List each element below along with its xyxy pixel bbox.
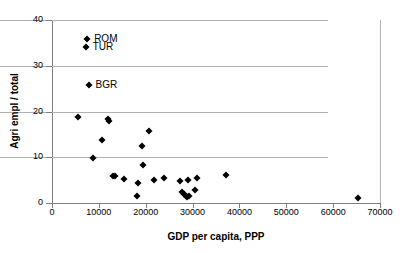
y-tick-20: [46, 112, 52, 113]
x-axis-line: [52, 203, 381, 204]
y-tick-label-10: 10: [0, 152, 43, 161]
data-point-label-TUR: TUR: [93, 42, 114, 52]
y-tick-40: [46, 20, 52, 21]
y-tick-label-40: 40: [0, 15, 43, 24]
y-axis-title: Agri empl / total: [9, 36, 21, 186]
y-tick-label-20: 20: [0, 107, 43, 116]
plot-right-border: [380, 20, 381, 204]
x-axis-title: GDP per capita, PPP: [52, 231, 380, 243]
y-tick-30: [46, 66, 52, 67]
y-tick-label-0: 0: [0, 198, 43, 207]
x-tick-label-70000: 70000: [350, 208, 407, 217]
y-tick-10: [46, 157, 52, 158]
scatter-chart: 010203040 010000200003000040000500006000…: [0, 0, 407, 253]
y-tick-label-30: 30: [0, 61, 43, 70]
data-point-label-BGR: BGR: [96, 80, 118, 90]
